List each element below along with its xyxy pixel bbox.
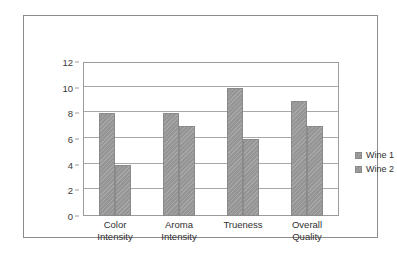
x-axis-label-overall-quality: OverallQuality — [272, 219, 342, 242]
y-tick-label-8: 8 — [68, 108, 73, 119]
y-tick-mark-10 — [75, 87, 79, 88]
x-axis: ColorIntensityAromaIntensityTruenessOver… — [83, 219, 339, 249]
legend-item-wine-2[interactable]: Wine 2 — [355, 163, 397, 175]
chart-legend: Wine 1Wine 2 — [355, 149, 397, 177]
y-tick-mark-4 — [75, 164, 79, 165]
bar-wine-1-overall-quality — [291, 101, 307, 217]
y-tick-mark-2 — [75, 190, 79, 191]
x-axis-label-trueness: Trueness — [208, 219, 278, 231]
legend-swatch-icon — [355, 166, 362, 173]
legend-item-wine-1[interactable]: Wine 1 — [355, 149, 397, 161]
y-axis: 024681012 — [52, 56, 79, 222]
y-tick-label-12: 12 — [62, 57, 73, 68]
bar-wine-2-color-intensity — [115, 165, 131, 216]
y-tick-label-10: 10 — [62, 82, 73, 93]
y-tick-label-6: 6 — [68, 134, 73, 145]
y-tick-mark-12 — [75, 62, 79, 63]
y-tick-mark-8 — [75, 113, 79, 114]
legend-label: Wine 1 — [366, 150, 394, 160]
y-tick-label-2: 2 — [68, 185, 73, 196]
bar-wine-1-color-intensity — [99, 113, 115, 216]
y-tick-mark-6 — [75, 139, 79, 140]
bar-wine-2-trueness — [243, 139, 259, 216]
legend-label: Wine 2 — [366, 164, 394, 174]
bars-layer — [83, 62, 339, 216]
y-tick-label-4: 4 — [68, 159, 73, 170]
y-tick-label-0: 0 — [68, 211, 73, 222]
figure-frame: 024681012 ColorIntensityAromaIntensityTr… — [23, 15, 378, 238]
bar-wine-1-trueness — [227, 88, 243, 216]
bar-wine-2-overall-quality — [307, 126, 323, 216]
x-axis-label-color-intensity: ColorIntensity — [80, 219, 150, 242]
y-tick-mark-0 — [75, 216, 79, 217]
bar-wine-1-aroma-intensity — [163, 113, 179, 216]
x-axis-label-aroma-intensity: AromaIntensity — [144, 219, 214, 242]
legend-swatch-icon — [355, 152, 362, 159]
bar-wine-2-aroma-intensity — [179, 126, 195, 216]
